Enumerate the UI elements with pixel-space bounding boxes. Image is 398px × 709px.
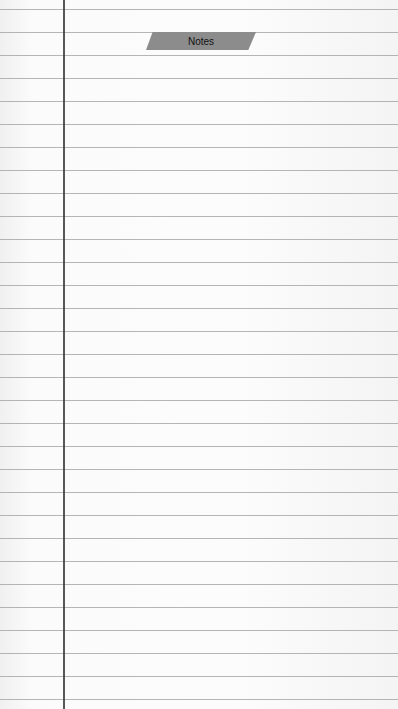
ruled-line: [0, 262, 398, 263]
ruled-line: [0, 423, 398, 424]
ruled-line: [0, 607, 398, 608]
ruled-line: [0, 216, 398, 217]
ruled-line: [0, 699, 398, 700]
ruled-line: [0, 147, 398, 148]
ruled-line: [0, 653, 398, 654]
ruled-line: [0, 239, 398, 240]
title-tape: Notes: [146, 32, 256, 50]
ruled-line: [0, 9, 398, 10]
ruled-line: [0, 446, 398, 447]
ruled-line: [0, 676, 398, 677]
ruled-line: [0, 331, 398, 332]
ruled-line: [0, 584, 398, 585]
ruled-line: [0, 285, 398, 286]
ruled-line: [0, 492, 398, 493]
ruled-line: [0, 538, 398, 539]
page-title: Notes: [188, 36, 214, 47]
ruled-line: [0, 469, 398, 470]
ruled-line: [0, 101, 398, 102]
notepad-paper[interactable]: [0, 0, 398, 709]
ruled-line: [0, 193, 398, 194]
ruled-line: [0, 561, 398, 562]
ruled-line: [0, 124, 398, 125]
ruled-line: [0, 170, 398, 171]
ruled-line: [0, 78, 398, 79]
ruled-line: [0, 377, 398, 378]
ruled-line: [0, 400, 398, 401]
ruled-line: [0, 515, 398, 516]
margin-line: [63, 0, 65, 709]
ruled-line: [0, 308, 398, 309]
ruled-line: [0, 630, 398, 631]
ruled-line: [0, 55, 398, 56]
ruled-line: [0, 354, 398, 355]
